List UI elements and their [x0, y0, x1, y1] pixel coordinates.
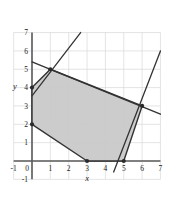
y-tick-label: -1: [22, 175, 28, 184]
x-tick-label: 6: [140, 164, 144, 173]
x-axis-name: x: [84, 173, 89, 183]
y-tick-label: 6: [24, 47, 28, 56]
x-tick-label: 2: [67, 164, 71, 173]
origin-tick-label: 0: [25, 164, 29, 173]
y-tick-label: 5: [24, 65, 28, 74]
y-tick-label: 3: [24, 102, 28, 111]
y-tick-label: 1: [24, 138, 28, 147]
y-tick-label: 7: [24, 28, 28, 37]
plot-area: -112345670-11234567 xy: [0, 0, 188, 199]
x-tick-label: 1: [48, 164, 52, 173]
y-tick-label: 4: [24, 83, 28, 92]
y-axis-name: y: [12, 81, 17, 91]
vertex-marker: [30, 86, 34, 90]
x-tick-label: 3: [85, 164, 89, 173]
coordinate-graph-figure: -112345670-11234567 xy: [0, 0, 188, 199]
x-tick-label: 4: [104, 164, 108, 173]
x-tick-label: -1: [11, 164, 17, 173]
vertex-marker: [48, 67, 52, 71]
vertex-marker: [122, 159, 126, 163]
x-tick-label: 5: [122, 164, 126, 173]
y-tick-label: 2: [24, 120, 28, 129]
vertex-marker: [85, 159, 89, 163]
vertex-marker: [30, 122, 34, 126]
vertex-marker: [140, 104, 144, 108]
x-tick-label: 7: [159, 164, 163, 173]
